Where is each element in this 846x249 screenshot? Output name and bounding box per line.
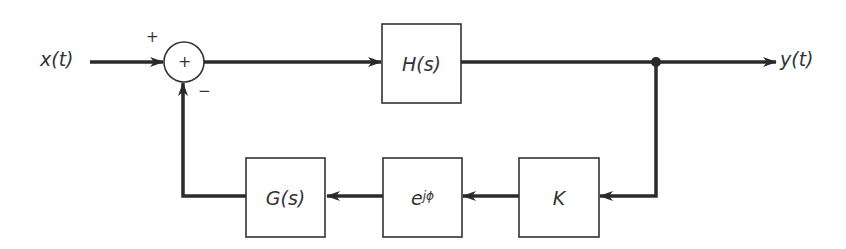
- input-label: x(t): [40, 50, 74, 69]
- h-block-label: H(s): [382, 24, 461, 103]
- block-diagram: x(t) y(t) + − + H(s) K ejϕ G(s): [0, 0, 846, 249]
- g-block-label: G(s): [246, 158, 325, 237]
- phase-block-label: ejϕ: [383, 158, 462, 237]
- output-label: y(t): [780, 50, 814, 69]
- feedback-to-junction-arrow: [183, 83, 246, 196]
- k-block-label: K: [519, 158, 599, 237]
- junction-symbol: +: [178, 54, 191, 70]
- phase-exponent: jϕ: [423, 189, 434, 203]
- phase-base: e: [411, 187, 423, 209]
- plus-sign-label: +: [146, 30, 159, 45]
- minus-sign-label: −: [198, 84, 211, 99]
- feedback-to-k-arrow: [600, 62, 656, 196]
